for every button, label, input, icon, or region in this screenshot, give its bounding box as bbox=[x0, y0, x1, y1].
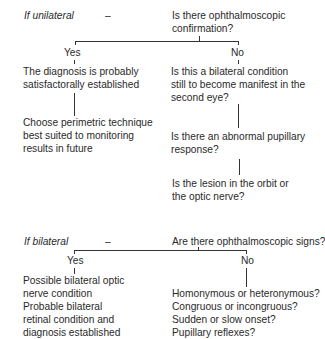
unilateral-bracket-left bbox=[75, 41, 76, 45]
unilateral-question-line2: confirmation? bbox=[172, 23, 233, 35]
unilateral-dash: – bbox=[105, 10, 111, 22]
bilateral-bracket-left bbox=[74, 250, 75, 254]
yes-connector-1 bbox=[74, 60, 75, 64]
unilateral-bracket-right bbox=[238, 41, 239, 45]
bilateral-no-connector bbox=[246, 268, 247, 287]
bilateral-dash: – bbox=[105, 236, 111, 248]
bilateral-yes-line2: nerve condition bbox=[23, 288, 92, 300]
bilateral-no-q2: Congruous or incongruous? bbox=[172, 301, 298, 313]
yes-next-line3: results in future bbox=[23, 143, 93, 155]
no-connector-3 bbox=[239, 159, 240, 175]
no-q2-line2: response? bbox=[171, 144, 219, 156]
bilateral-no-q3: Sudden or slow onset? bbox=[172, 314, 276, 326]
no-q1-line3: second eye? bbox=[171, 92, 229, 104]
yes-result-line1: The diagnosis is probably bbox=[23, 66, 139, 78]
unilateral-bracket bbox=[75, 41, 239, 42]
no-q1-line2: still to become manifest in the bbox=[171, 79, 305, 91]
bilateral-no-q4: Pupillary reflexes? bbox=[172, 327, 255, 339]
no-q3-line1: Is the lesion in the orbit or bbox=[172, 178, 289, 190]
yes-connector-2 bbox=[74, 93, 75, 116]
bilateral-yes-line3: Probable bilateral bbox=[23, 301, 102, 313]
bilateral-yes-line1: Possible bilateral optic bbox=[23, 275, 124, 287]
bilateral-yes-label: Yes bbox=[67, 255, 84, 267]
no-connector-1 bbox=[238, 60, 239, 64]
no-q2-line1: Is there an abnormal pupillary bbox=[171, 131, 305, 143]
bilateral-yes-line4: retinal condition and bbox=[23, 314, 114, 326]
unilateral-no-label: No bbox=[231, 47, 244, 59]
yes-result-line2: satisfactorally established bbox=[23, 79, 139, 91]
yes-next-line2: best suited to monitoring bbox=[23, 130, 134, 142]
bilateral-question: Are there ophthalmoscopic signs? bbox=[172, 236, 325, 248]
no-connector-2 bbox=[238, 104, 239, 128]
bilateral-no-q1: Homonymous or heteronymous? bbox=[172, 288, 320, 300]
unilateral-condition-label: If unilateral bbox=[24, 10, 74, 22]
unilateral-yes-label: Yes bbox=[64, 47, 81, 59]
no-q3-line2: the optic nerve? bbox=[172, 191, 245, 203]
no-q1-line1: Is this a bilateral condition bbox=[171, 66, 288, 78]
bilateral-condition-label: If bilateral bbox=[24, 236, 68, 248]
bilateral-bracket bbox=[74, 250, 247, 251]
unilateral-question-line1: Is there ophthalmoscopic bbox=[172, 10, 285, 22]
bilateral-bracket-right bbox=[246, 250, 247, 254]
bilateral-yes-line5: diagnosis established bbox=[23, 327, 120, 339]
bilateral-yes-connector bbox=[74, 268, 75, 274]
yes-next-line1: Choose perimetric technique bbox=[23, 117, 153, 129]
bilateral-no-label: No bbox=[241, 255, 254, 267]
